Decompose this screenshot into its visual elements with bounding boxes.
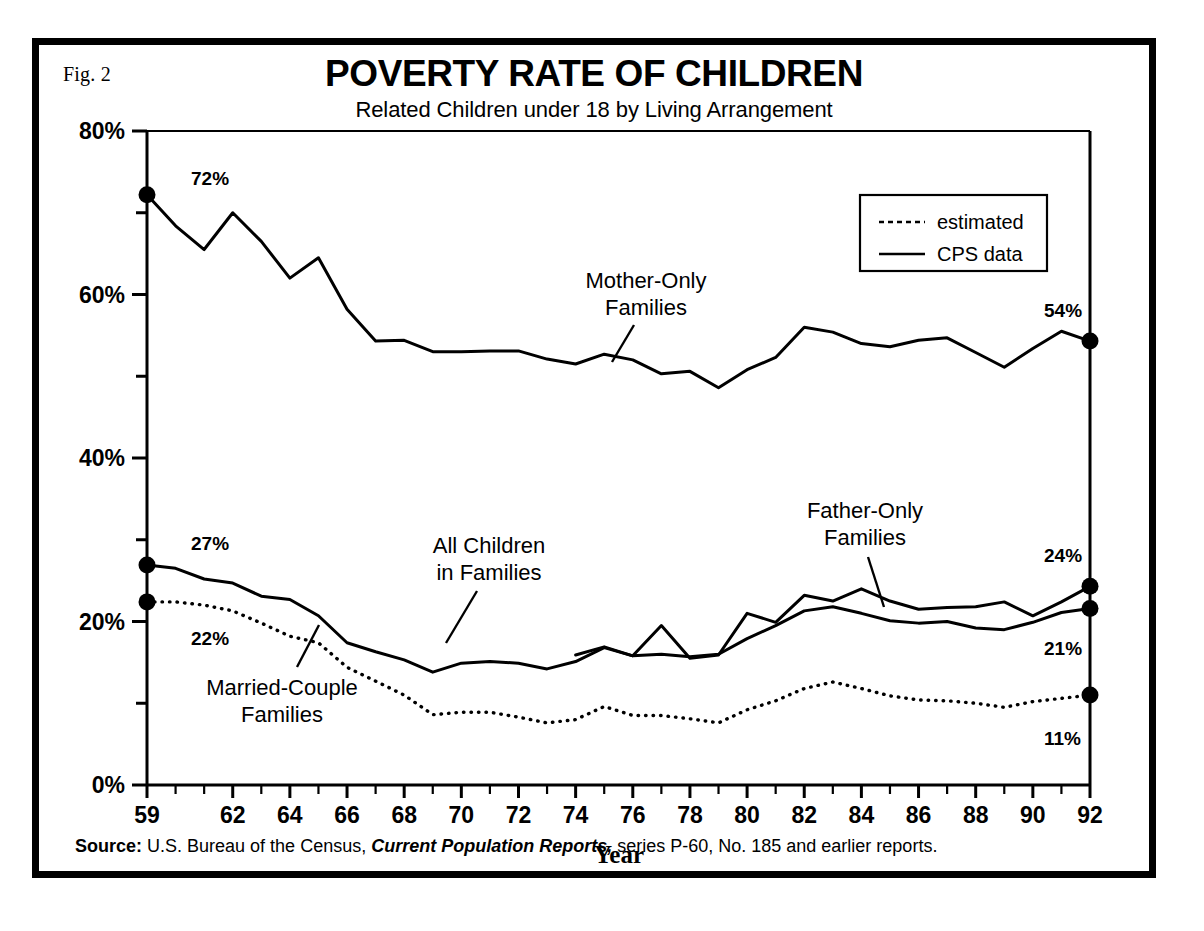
series-endpoint-marker — [1082, 578, 1099, 595]
x-tick-label: 92 — [1077, 802, 1103, 828]
x-tick-label: 82 — [791, 802, 817, 828]
x-tick-label: 80 — [734, 802, 760, 828]
y-tick-label: 40% — [79, 445, 125, 471]
legend-label-cps-data: CPS data — [937, 243, 1023, 265]
label-married-end: 11% — [1044, 728, 1081, 749]
series-endpoint-marker — [1082, 687, 1099, 704]
series-line — [576, 586, 1090, 658]
label-mother-end: 54% — [1044, 300, 1082, 321]
y-tick-label: 20% — [79, 609, 125, 635]
annotation-mother-only: Mother-Only Families — [585, 268, 706, 362]
y-tick-label: 60% — [79, 282, 125, 308]
annotation-mother-only-line2: Families — [605, 295, 687, 320]
series-endpoint-marker — [139, 186, 156, 203]
x-tick-label: 66 — [334, 802, 360, 828]
label-married-start: 22% — [191, 628, 229, 649]
annotation-father-only-line2: Families — [824, 525, 906, 550]
annotation-all-children: All Children in Families — [433, 533, 546, 643]
label-mother-start: 72% — [191, 168, 229, 189]
series-endpoint-marker — [1082, 600, 1099, 617]
x-tick-label: 76 — [620, 802, 646, 828]
label-father-end: 24% — [1044, 545, 1082, 566]
chart-svg: 0%20%40%60%80% 5962646668707274767880828… — [39, 45, 1149, 871]
leader-line-all-children — [446, 591, 477, 643]
source-publication: Current Population Reports, — [371, 836, 612, 856]
x-tick-label: 64 — [277, 802, 303, 828]
series-endpoint-marker — [139, 593, 156, 610]
legend[interactable]: estimated CPS data — [860, 195, 1047, 271]
legend-label-estimated: estimated — [937, 211, 1024, 233]
label-all-children-end: 21% — [1044, 638, 1082, 659]
source-prefix: Source: — [75, 836, 142, 856]
y-axis-ticks — [132, 131, 147, 785]
annotation-all-children-line1: All Children — [433, 533, 546, 558]
plot-area: 0%20%40%60%80% 5962646668707274767880828… — [39, 45, 1149, 871]
x-axis-tick-labels: 5962646668707274767880828486889092 — [134, 802, 1103, 828]
source-text-2: series P-60, No. 185 and earlier reports… — [617, 836, 937, 856]
annotation-father-only-line1: Father-Only — [807, 498, 923, 523]
x-tick-label: 88 — [963, 802, 989, 828]
x-tick-label: 86 — [906, 802, 932, 828]
x-tick-label: 72 — [506, 802, 532, 828]
leader-line-father-only — [868, 557, 884, 607]
series-endpoint-marker — [139, 557, 156, 574]
source-text-1: U.S. Bureau of the Census, — [147, 836, 366, 856]
series-endpoint-marker — [1082, 333, 1099, 350]
annotation-married-couple-line1: Married-Couple — [206, 675, 358, 700]
x-tick-label: 62 — [220, 802, 246, 828]
x-tick-label: 90 — [1020, 802, 1046, 828]
x-tick-label: 74 — [563, 802, 589, 828]
x-axis-ticks — [147, 785, 1090, 798]
source-note: Source: U.S. Bureau of the Census, Curre… — [75, 836, 937, 857]
annotation-mother-only-line1: Mother-Only — [585, 268, 706, 293]
y-tick-label: 0% — [92, 772, 125, 798]
figure-frame: Fig. 2 POVERTY RATE OF CHILDREN Related … — [32, 38, 1156, 878]
annotation-all-children-line2: in Families — [436, 560, 541, 585]
x-tick-label: 68 — [391, 802, 417, 828]
annotation-married-couple-line2: Families — [241, 702, 323, 727]
y-tick-label: 80% — [79, 118, 125, 144]
x-tick-label: 70 — [449, 802, 475, 828]
series-line — [147, 565, 1090, 672]
x-tick-label: 59 — [134, 802, 160, 828]
leader-line-married-couple — [297, 625, 319, 667]
x-tick-label: 84 — [849, 802, 875, 828]
y-axis-tick-labels: 0%20%40%60%80% — [79, 118, 125, 798]
label-all-children-start: 27% — [191, 533, 229, 554]
x-tick-label: 78 — [677, 802, 703, 828]
